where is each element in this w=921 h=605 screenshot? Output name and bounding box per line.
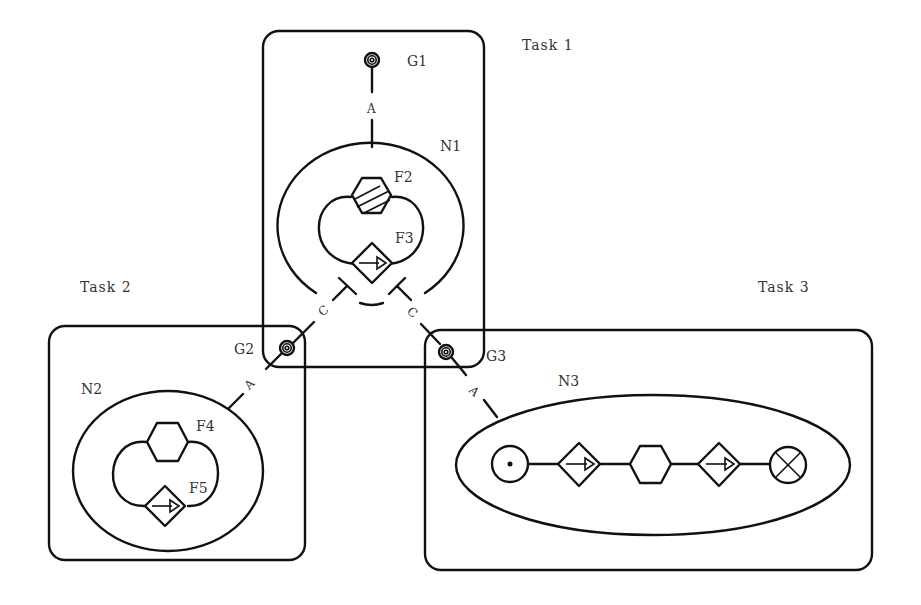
n2-loop-left: [113, 442, 146, 506]
end-cross-circle-icon[interactable]: [770, 447, 806, 483]
arc-g2-lower: [229, 394, 243, 408]
goal-g1-icon[interactable]: [365, 53, 379, 67]
arc-c1-label: C: [315, 302, 331, 319]
task1-label: Task 1: [522, 37, 574, 53]
function-f2-hexagon-icon[interactable]: [352, 178, 391, 213]
function-f4-hexagon-icon[interactable]: [147, 423, 188, 461]
net-n2-outline: [73, 391, 263, 551]
hexagon-icon[interactable]: [630, 446, 671, 483]
function-f5-arrow-diamond-icon[interactable]: [145, 486, 185, 526]
goal-g3-icon[interactable]: [439, 345, 453, 359]
task-diagram: Task 1 Task 2 Task 3 G1 A N1 F2 F3 C C: [0, 0, 921, 605]
net-n2-label: N2: [81, 381, 102, 397]
function-f4-label: F4: [196, 418, 215, 434]
arc-a3-label: A: [466, 383, 483, 400]
arc-g3-lower: [484, 400, 497, 417]
start-circle-icon[interactable]: [492, 446, 528, 482]
function-f2-label: F2: [394, 169, 413, 185]
n1-bottom-arc: [360, 303, 383, 305]
arc-c2-label: C: [404, 304, 420, 321]
n1-loop-left: [319, 197, 355, 264]
n2-loop-right: [188, 442, 218, 506]
task3-label: Task 3: [758, 279, 810, 295]
net-n1-label: N1: [440, 138, 461, 154]
goal-g2-label: G2: [234, 341, 254, 357]
c2-stem: [397, 286, 411, 300]
function-f3-arrow-diamond-icon[interactable]: [352, 243, 392, 283]
net-n3-label: N3: [558, 373, 579, 389]
task2-label: Task 2: [80, 279, 132, 295]
arrow-diamond-icon[interactable]: [558, 443, 600, 486]
arrow-diamond-icon[interactable]: [698, 443, 740, 486]
goal-g1-label: G1: [407, 53, 427, 69]
c1-stem: [333, 286, 347, 300]
goal-g2-icon[interactable]: [280, 341, 294, 355]
arc-a2-label: A: [241, 376, 258, 393]
arc-c2-to-g3: [421, 324, 440, 344]
function-f5-label: F5: [189, 480, 208, 496]
function-f3-label: F3: [395, 230, 414, 246]
arc-a1-label: A: [366, 102, 376, 116]
goal-g3-label: G3: [486, 348, 506, 364]
